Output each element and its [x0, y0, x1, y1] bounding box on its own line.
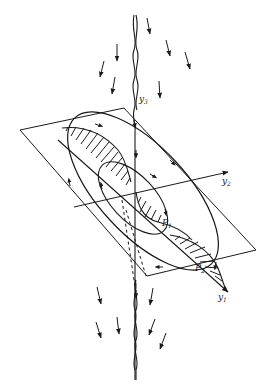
diagram-labels: y3 y2 y1 P1 P2 — [138, 94, 231, 303]
inner-ellipse-trajectory — [86, 150, 180, 246]
vortex-diagram: y3 y2 y1 P1 P2 — [0, 0, 272, 385]
label-y1: y1 — [217, 292, 227, 303]
upper-hatched-velocity-profile — [62, 127, 131, 185]
diagram-canvas: y3 y2 y1 P1 P2 — [0, 0, 272, 385]
flow-arrows-below — [96, 287, 166, 349]
label-p1: P1 — [161, 218, 172, 229]
label-y2: y2 — [221, 176, 231, 187]
label-p2: P2 — [194, 263, 205, 274]
flow-arrows-above — [100, 18, 190, 98]
label-y3: y3 — [138, 94, 148, 105]
